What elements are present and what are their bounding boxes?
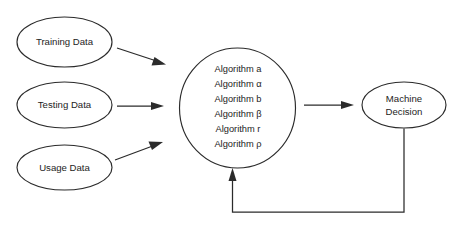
algorithm-item-6: Algorithm ρ <box>214 139 261 149</box>
node-machine-decision[interactable]: Machine Decision <box>362 82 446 128</box>
algorithm-item-3: Algorithm b <box>214 94 261 104</box>
node-algorithms[interactable]: Algorithm a Algorithm α Algorithm b Algo… <box>180 48 296 168</box>
machine-decision-label-line1: Machine <box>386 93 422 104</box>
algorithm-item-4: Algorithm β <box>214 109 261 119</box>
edge-training-to-algorithms <box>117 48 166 66</box>
usage-edge-arrowhead <box>149 142 164 151</box>
usage-edge-line <box>115 146 154 161</box>
edge-testing-to-algorithms <box>117 102 164 110</box>
algorithm-item-2: Algorithm α <box>214 79 262 89</box>
testing-edge-arrowhead <box>151 102 164 110</box>
testing-data-label: Testing Data <box>38 99 92 110</box>
edge-usage-to-algorithms <box>115 142 163 161</box>
algorithm-item-5: Algorithm r <box>216 124 261 134</box>
machine-decision-label-line2: Decision <box>386 106 423 117</box>
algorithm-item-1: Algorithm a <box>214 64 262 74</box>
training-edge-arrowhead <box>152 57 167 66</box>
feedback-edge-arrowhead <box>229 168 237 181</box>
node-usage-data[interactable]: Usage Data <box>17 145 112 190</box>
usage-data-label: Usage Data <box>39 162 90 173</box>
node-testing-data[interactable]: Testing Data <box>17 82 112 128</box>
decision-edge-arrowhead <box>341 101 354 109</box>
training-data-label: Training Data <box>36 36 94 47</box>
diagram-canvas: Training Data Testing Data Usage Data Al… <box>0 0 460 232</box>
edge-algorithms-to-decision <box>304 101 354 109</box>
training-edge-line <box>117 48 158 62</box>
flow-diagram: Training Data Testing Data Usage Data Al… <box>0 0 460 232</box>
node-training-data[interactable]: Training Data <box>17 17 112 67</box>
